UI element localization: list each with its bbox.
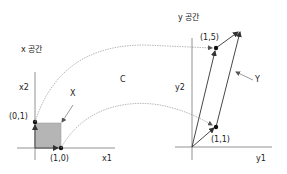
x1-axis-label: x1	[102, 155, 112, 163]
parallelogram-top-edge	[216, 32, 238, 48]
point-1-5	[214, 46, 218, 50]
diagram-graphics	[0, 0, 287, 174]
x-region-pointer	[62, 105, 73, 122]
point-1-0-label: (1,0)	[50, 155, 69, 163]
x-region-square	[35, 123, 61, 148]
point-1-1	[214, 125, 218, 129]
x-region-label: X	[70, 90, 75, 98]
mapping-curve-1-0	[61, 103, 212, 148]
x-space-title: x 공간	[21, 46, 42, 54]
y-region-pointer	[236, 72, 253, 80]
parallelogram-right-edge	[216, 32, 240, 127]
image-vector-1-5	[192, 51, 215, 147]
mapping-label: C	[120, 76, 126, 84]
y1-axis-label: y1	[256, 155, 266, 163]
point-0-1-label: (0,1)	[9, 113, 28, 121]
y2-axis-label: y2	[175, 84, 185, 92]
point-1-5-label: (1,5)	[200, 34, 219, 42]
point-1-1-label: (1,1)	[211, 136, 230, 144]
y-region-label: Y	[255, 76, 260, 84]
x2-axis-label: x2	[19, 84, 29, 92]
linear-transformation-diagram: x 공간 x2 X (0,1) (1,0) x1 C y 공간 (1,5) y2…	[0, 0, 287, 174]
y-space-title: y 공간	[178, 14, 199, 22]
